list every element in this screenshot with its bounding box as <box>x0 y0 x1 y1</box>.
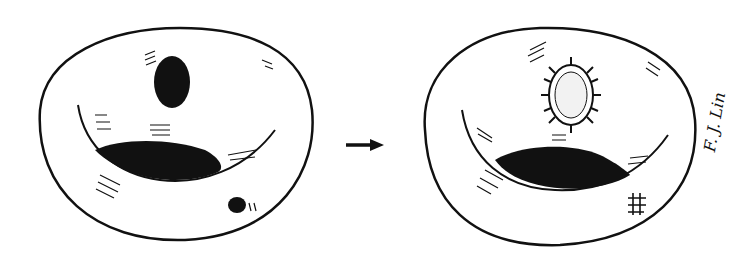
left-dark-mass <box>95 141 221 180</box>
right-arrow-icon <box>346 139 384 151</box>
cross-hatch-mark <box>628 193 646 215</box>
right-cell-outline <box>425 28 696 245</box>
figure-canvas <box>0 0 743 269</box>
left-nucleus <box>154 56 190 108</box>
right-cell <box>425 28 696 245</box>
left-cell <box>40 28 313 240</box>
right-stippled-body <box>541 57 601 133</box>
left-small-dot <box>228 197 246 213</box>
